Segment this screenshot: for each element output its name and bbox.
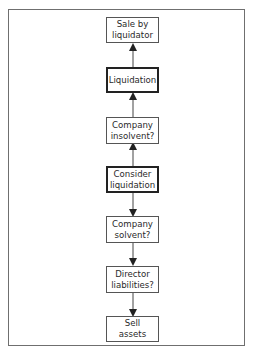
node-director-liabilities: Director liabilities?: [106, 266, 159, 293]
node-consider-liquidation: Consider liquidation: [106, 166, 159, 193]
node-sale-by-liquidator: Sale by liquidator: [106, 17, 159, 43]
node-company-insolvent: Company insolvent?: [106, 117, 159, 144]
node-sell-assets: Sell assets: [106, 316, 159, 342]
node-liquidation: Liquidation: [106, 67, 159, 93]
node-company-solvent: Company solvent?: [106, 216, 159, 243]
